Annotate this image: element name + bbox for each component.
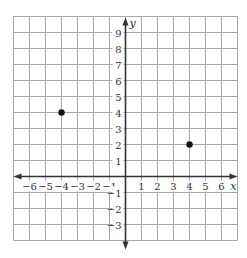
data-point [186,141,192,147]
x-tick-label: −2 [86,181,101,192]
y-tick-label: 2 [115,140,121,151]
y-tick-label: −2 [107,204,122,215]
y-axis-label: y [129,17,137,30]
x-tick-label: 3 [170,181,176,192]
x-tick-label: 4 [186,181,192,192]
y-tick-label: −1 [107,188,122,199]
x-tick-label: 6 [218,181,224,192]
x-tick-label: −3 [70,181,85,192]
coordinate-plane: −6−5−4−3−2−1123456987654321−1−2−3xy [0,0,247,258]
y-axis-arrow-down-icon [123,242,129,250]
x-axis-arrow-left-icon [14,174,22,180]
x-axis-label: x [230,180,237,193]
x-tick-label: −4 [54,181,69,192]
x-tick-label: 2 [154,181,160,192]
y-tick-label: 6 [115,76,121,87]
data-point [58,109,64,115]
y-tick-label: 1 [115,156,121,167]
x-tick-label: −5 [38,181,53,192]
x-tick-label: 5 [202,181,208,192]
y-tick-label: 3 [115,124,121,135]
y-axis-arrow-up-icon [123,18,129,26]
x-tick-label: −6 [22,181,37,192]
y-tick-label: −3 [107,220,122,231]
y-tick-label: 9 [115,28,121,39]
x-tick-label: 1 [138,181,144,192]
y-tick-label: 8 [115,44,121,55]
y-tick-label: 5 [115,92,121,103]
y-tick-label: 4 [115,108,121,119]
y-tick-label: 7 [115,60,121,71]
